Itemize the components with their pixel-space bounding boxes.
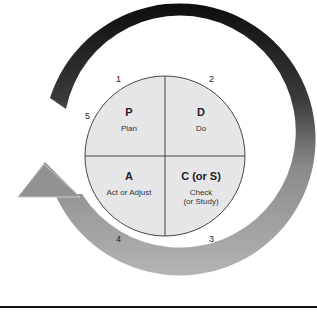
pdca-circle [85, 76, 245, 236]
quadrant-letter: D [167, 106, 235, 118]
step-number-4: 4 [116, 234, 121, 244]
quadrant-letter: P [95, 106, 163, 118]
quadrant-check: C (or S) Check (or Study) [167, 170, 235, 206]
step-number-2: 2 [209, 74, 214, 84]
quadrant-label: Plan [95, 124, 163, 133]
step-number-1: 1 [116, 74, 121, 84]
quadrant-label-secondary: (or Study) [167, 197, 235, 206]
step-number-3: 3 [209, 234, 214, 244]
step-number-5: 5 [85, 111, 90, 121]
quadrant-letter: C (or S) [167, 170, 235, 182]
pdca-diagram [0, 0, 317, 314]
quadrant-label: Check [167, 188, 235, 197]
bottom-rule [0, 306, 317, 308]
quadrant-act: A Act or Adjust [95, 170, 163, 197]
quadrant-plan: P Plan [95, 106, 163, 133]
quadrant-label: Do [167, 124, 235, 133]
quadrant-letter: A [95, 170, 163, 182]
quadrant-label: Act or Adjust [95, 188, 163, 197]
quadrant-do: D Do [167, 106, 235, 133]
